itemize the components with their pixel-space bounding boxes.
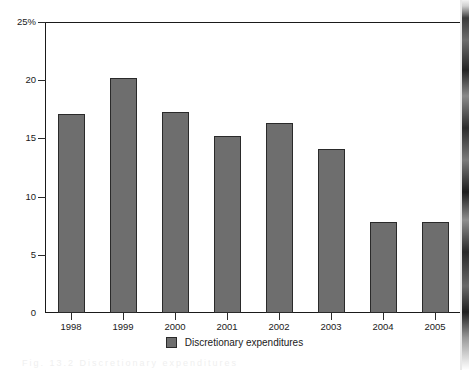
x-axis-tick-1998	[71, 313, 72, 320]
bar-series-discretionary-expenditures	[45, 22, 461, 313]
y-axis-tick-0	[38, 255, 46, 256]
chart-page: 0 5 10 15 20 25% 1998 1999 2000 2001 200…	[0, 0, 469, 370]
y-axis-tick-4	[38, 22, 46, 23]
y-axis: 0 5 10 15 20 25%	[0, 0, 36, 370]
bar-1998	[58, 114, 85, 313]
y-axis-tick-2	[38, 138, 46, 139]
x-axis-tick-2000	[175, 313, 176, 320]
x-axis-tick-2004	[383, 313, 384, 320]
x-axis-label-1999: 1999	[97, 322, 149, 332]
y-axis-label-4: 20	[2, 75, 36, 85]
x-axis-label-2001: 2001	[201, 322, 253, 332]
x-axis-tick-1999	[123, 313, 124, 320]
bar-2003	[318, 149, 345, 313]
y-axis-label-1: 5	[2, 250, 36, 260]
x-axis-label-2005: 2005	[409, 322, 461, 332]
x-axis-label-2002: 2002	[253, 322, 305, 332]
bar-2000	[162, 112, 189, 313]
page-bleed-text: Fig. 13.2 Discretionary expenditures	[22, 358, 238, 368]
y-axis-tick-3	[38, 80, 46, 81]
legend-label-discretionary-expenditures: Discretionary expenditures	[185, 338, 303, 348]
bar-2004	[370, 222, 397, 313]
y-axis-tick-1	[38, 197, 46, 198]
y-axis-label-3: 15	[2, 134, 36, 144]
bar-1999	[110, 78, 137, 313]
x-axis-tick-2002	[279, 313, 280, 320]
x-axis-label-2000: 2000	[149, 322, 201, 332]
scan-page-edge	[462, 0, 469, 370]
y-axis-label-0: 0	[2, 308, 36, 318]
legend-swatch-discretionary-expenditures	[166, 337, 177, 348]
bar-2005	[422, 222, 449, 313]
x-axis-label-2003: 2003	[305, 322, 357, 332]
x-axis-label-1998: 1998	[45, 322, 97, 332]
x-axis-tick-2003	[331, 313, 332, 320]
bar-2002	[266, 123, 293, 313]
x-axis-tick-2001	[227, 313, 228, 320]
y-axis-label-2: 10	[2, 192, 36, 202]
chart-legend: Discretionary expenditures	[0, 337, 469, 348]
bar-2001	[214, 136, 241, 313]
y-axis-label-5: 25%	[2, 17, 36, 27]
x-axis-label-2004: 2004	[357, 322, 409, 332]
x-axis-tick-2005	[435, 313, 436, 320]
